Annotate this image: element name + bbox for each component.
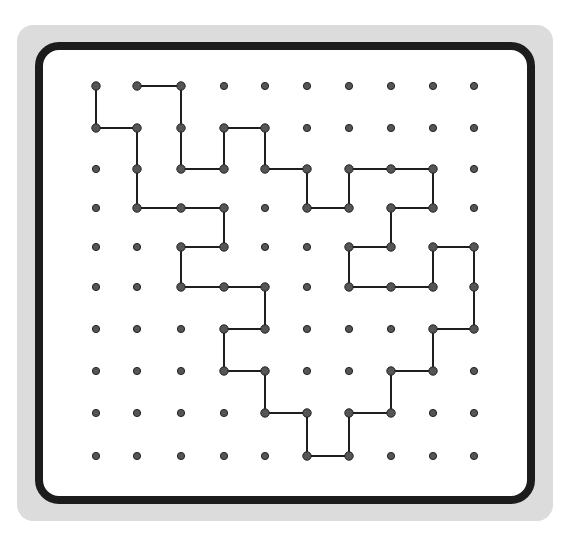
grid-dot [92,124,100,132]
grid-dot [92,325,99,332]
grid-dot [470,204,477,211]
grid-dot [429,283,437,291]
grid-dot [133,452,140,459]
grid-dot [345,82,352,89]
grid-dot [220,204,228,212]
grid-dot [470,283,478,291]
grid-dot [92,165,99,172]
grid-dot [387,82,394,89]
grid-dot [345,243,353,251]
grid-dot [220,367,228,375]
grid-dot [429,452,436,459]
grid-dot [429,409,436,416]
grid-dot [92,204,99,211]
grid-dot [387,367,395,375]
grid-dot [429,124,436,131]
grid-dot [220,325,228,333]
grid-dot [303,82,310,89]
grid-dot [470,452,477,459]
grid-dot [261,325,269,333]
grid-dot [177,124,185,132]
grid-dot [177,325,184,332]
grid-dot [387,409,395,417]
grid-dot [92,82,100,90]
grid-dot [303,243,310,250]
grid-dots [92,82,478,460]
grid-dot [387,204,395,212]
grid-dot [220,165,228,173]
grid-dot [261,452,268,459]
grid-dot [429,243,437,251]
grid-dot [92,283,99,290]
grid-dot [387,452,394,459]
grid-dot [387,325,394,332]
grid-dot [133,124,141,132]
grid-dot [220,283,228,291]
grid-dot [133,367,140,374]
grid-dot [470,124,477,131]
grid-dot [220,452,227,459]
grid-dot [133,325,140,332]
grid-dot [303,165,311,173]
grid-dot [470,82,477,89]
grid-dot [177,243,185,251]
grid-dot [345,409,353,417]
grid-dot [387,124,394,131]
grid-dot [303,409,311,417]
grid-dot [92,243,99,250]
grid-dot [387,243,395,251]
grid-dot [429,82,436,89]
grid-dot [261,409,269,417]
grid-dot [92,452,99,459]
grid-dot [470,325,478,333]
grid-dot [220,82,227,89]
grid-dot [133,409,140,416]
grid-dot [303,204,311,212]
grid-dot [345,283,353,291]
grid-dot [303,283,310,290]
grid-dot [470,367,477,374]
grid-dot [470,243,478,251]
grid-dot [429,204,437,212]
grid-dot [133,243,140,250]
grid-dot [177,82,185,90]
grid-dot [345,124,352,131]
grid-dot [92,367,99,374]
grid-dot [429,367,437,375]
grid-dot [133,204,141,212]
grid-dot [261,283,269,291]
grid-dot [387,283,395,291]
grid-dot [387,165,395,173]
grid-dot [92,409,99,416]
grid-dot [303,367,310,374]
grid-dot [470,165,477,172]
grid-dot [261,82,268,89]
grid-dot [261,204,268,211]
grid-dot [261,243,268,250]
grid-dot [303,452,311,460]
grid-dot [345,204,353,212]
grid-dot [133,82,141,90]
grid-dot [220,124,228,132]
grid-dot [261,124,269,132]
grid-dot [177,452,184,459]
grid-dot [133,283,140,290]
grid-dot [177,283,185,291]
grid-dot [177,409,184,416]
grid-dot [345,165,353,173]
grid-dot [429,165,437,173]
grid-dot [177,367,184,374]
grid-dot [345,367,352,374]
grid-dot [429,325,437,333]
dot-grid [0,0,572,534]
grid-dot [303,124,310,131]
grid-dot [303,325,310,332]
grid-dot [220,409,227,416]
grid-dot [177,204,185,212]
grid-dot [470,409,477,416]
grid-dot [345,325,352,332]
grid-dot [345,452,353,460]
grid-dot [133,165,141,173]
grid-dot [220,243,228,251]
grid-dot [261,367,269,375]
